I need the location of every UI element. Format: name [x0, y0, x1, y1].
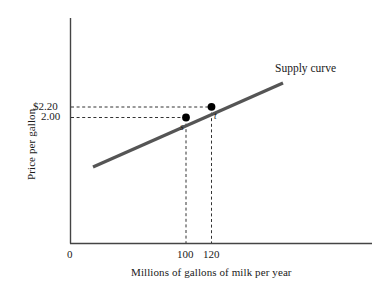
chart-canvas: [0, 0, 390, 289]
y-tick-label-200: 2.00: [41, 111, 60, 122]
supply-curve-figure: Price per gallon $2.20 2.00 0 100 120 Mi…: [0, 0, 390, 289]
supply-curve-label: Supply curve: [275, 63, 336, 75]
x-tick-label-origin: 0: [67, 249, 73, 260]
y-axis-title: Price per gallon: [26, 109, 37, 180]
x-tick-label-100: 100: [177, 249, 194, 260]
marker-label-s: s: [180, 123, 184, 133]
marker-label-t: t: [214, 112, 217, 122]
marker-point-s: [182, 114, 190, 122]
x-axis-title: Millions of gallons of milk per year: [131, 267, 292, 278]
x-tick-label-120: 120: [203, 249, 220, 260]
supply-curve-line: [93, 83, 283, 167]
marker-point-t: [208, 103, 216, 111]
